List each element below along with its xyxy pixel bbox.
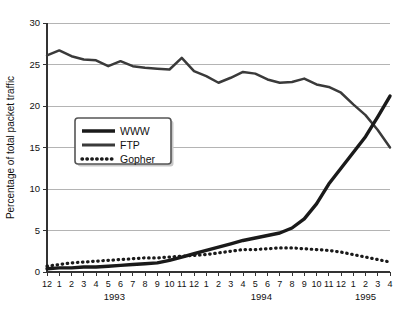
- x-tick-label-4: 4: [93, 279, 98, 289]
- chart-legend: WWWFTPGopher: [75, 118, 174, 167]
- y-axis-title: Percentage of total packet traffic: [5, 76, 16, 219]
- x-axis-year-labels: 199319941995: [104, 291, 376, 302]
- chart-container: 051015202530 121234567891011121234567891…: [0, 0, 400, 311]
- x-tick-label-17: 5: [253, 279, 258, 289]
- x-tick-label-9: 9: [155, 279, 160, 289]
- x-tick-label-25: 1: [351, 279, 356, 289]
- x-tick-label-20: 8: [289, 279, 294, 289]
- x-tick-label-22: 10: [311, 279, 321, 289]
- x-tick-label-0: 12: [42, 279, 52, 289]
- y-tick-label-15: 15: [29, 142, 40, 153]
- legend-label-gopher: Gopher: [120, 153, 156, 165]
- x-tick-label-2: 2: [69, 279, 74, 289]
- series-line-gopher: [47, 248, 390, 266]
- x-axis-year-1995: 1995: [355, 291, 376, 302]
- y-tick-label-25: 25: [29, 59, 40, 70]
- x-tick-label-5: 5: [106, 279, 111, 289]
- line-chart: 051015202530 121234567891011121234567891…: [0, 0, 400, 311]
- legend-label-ftp: FTP: [120, 139, 140, 151]
- legend-label-www: WWW: [120, 125, 150, 137]
- x-tick-label-14: 2: [216, 279, 221, 289]
- x-tick-label-6: 6: [118, 279, 123, 289]
- x-tick-label-13: 1: [204, 279, 209, 289]
- x-tick-label-28: 4: [387, 279, 392, 289]
- x-tick-label-7: 7: [130, 279, 135, 289]
- x-tick-label-24: 12: [336, 279, 346, 289]
- x-tick-label-19: 7: [277, 279, 282, 289]
- x-tick-label-3: 3: [81, 279, 86, 289]
- y-tick-label-5: 5: [35, 225, 40, 236]
- x-tick-label-27: 3: [375, 279, 380, 289]
- x-tick-label-12: 12: [189, 279, 199, 289]
- x-tick-label-10: 10: [164, 279, 174, 289]
- x-tick-label-26: 2: [363, 279, 368, 289]
- x-tick-label-1: 1: [57, 279, 62, 289]
- x-tick-label-16: 4: [240, 279, 245, 289]
- y-axis-title-label: Percentage of total packet traffic: [5, 76, 16, 219]
- x-tick-label-18: 6: [265, 279, 270, 289]
- x-tick-label-21: 9: [302, 279, 307, 289]
- y-tick-label-10: 10: [29, 183, 40, 194]
- x-axis-ticks: 121234567891011121234567891011121234: [42, 272, 393, 289]
- x-tick-label-15: 3: [228, 279, 233, 289]
- x-tick-label-11: 11: [177, 279, 186, 289]
- x-tick-label-23: 11: [324, 279, 333, 289]
- y-tick-label-0: 0: [35, 266, 40, 277]
- y-tick-label-30: 30: [29, 17, 40, 28]
- y-tick-label-20: 20: [29, 100, 40, 111]
- x-axis-year-1993: 1993: [104, 291, 125, 302]
- x-axis-year-1994: 1994: [251, 291, 272, 302]
- y-axis-ticks: 051015202530: [29, 17, 47, 277]
- x-tick-label-8: 8: [142, 279, 147, 289]
